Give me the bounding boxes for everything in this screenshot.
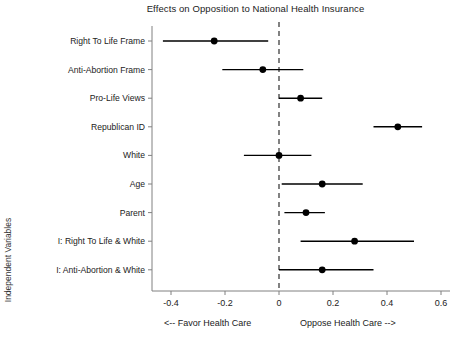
coefficient-row — [284, 209, 325, 216]
x-tick-label: 0 — [276, 298, 281, 308]
estimate-point — [303, 209, 310, 216]
coefficient-row — [222, 66, 303, 73]
estimate-point — [319, 181, 326, 188]
estimate-point — [297, 95, 304, 102]
coefficient-row — [282, 181, 363, 188]
estimate-point — [394, 123, 401, 130]
plot-area — [0, 0, 453, 340]
x-tick-label: 0.4 — [381, 298, 394, 308]
coefficient-row — [279, 95, 322, 102]
x-tick-label: -0.4 — [163, 298, 179, 308]
x-tick-label: 0.6 — [435, 298, 448, 308]
x-tick-label: -0.2 — [217, 298, 233, 308]
coefficient-row — [163, 38, 268, 45]
estimate-point — [351, 238, 358, 245]
estimate-point — [259, 66, 266, 73]
coefficient-row — [244, 152, 312, 159]
coefficient-plot-figure: Effects on Opposition to National Health… — [0, 0, 453, 340]
coefficient-row — [301, 238, 414, 245]
estimate-point — [276, 152, 283, 159]
coefficient-row — [279, 266, 374, 273]
oppose-health-care-note: Oppose Health Care --> — [300, 318, 396, 328]
estimate-point — [319, 266, 326, 273]
coefficient-row — [374, 123, 423, 130]
estimate-point — [211, 38, 218, 45]
x-tick-label: 0.2 — [327, 298, 340, 308]
favor-health-care-note: <-- Favor Health Care — [164, 318, 251, 328]
